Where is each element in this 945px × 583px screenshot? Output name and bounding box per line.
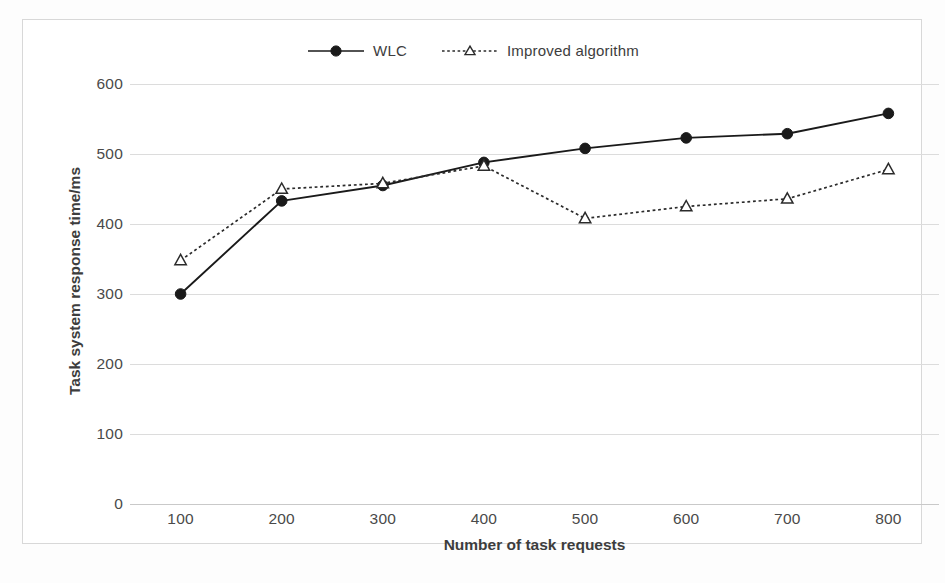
x-tick-label-800: 800: [875, 510, 901, 528]
chart-legend: WLC Improved algorithm: [23, 42, 923, 59]
x-axis-title: Number of task requests: [130, 536, 939, 554]
x-tick-label-600: 600: [673, 510, 699, 528]
data-point-marker-triangle[interactable]: [579, 212, 590, 222]
y-tick-label-0: 0: [31, 495, 123, 513]
plot-area: [130, 84, 939, 504]
chart-screenshot: WLC Improved algorithm 01002003004005006…: [0, 0, 945, 583]
x-tick-label-500: 500: [572, 510, 598, 528]
data-point-marker-triangle[interactable]: [681, 201, 692, 211]
data-point-marker-circle[interactable]: [883, 108, 894, 119]
x-tick-label-400: 400: [471, 510, 497, 528]
x-tick-label-200: 200: [268, 510, 294, 528]
data-point-marker-circle[interactable]: [580, 143, 591, 154]
series-layer: [130, 84, 939, 504]
x-tick-label-700: 700: [774, 510, 800, 528]
legend-solid-line-filled-circle-icon: [307, 44, 365, 58]
data-point-marker-triangle[interactable]: [175, 254, 186, 264]
legend-dotted-line-open-triangle-icon: [441, 44, 499, 58]
data-point-marker-triangle[interactable]: [782, 193, 793, 203]
data-point-marker-triangle[interactable]: [883, 163, 894, 173]
data-point-marker-circle[interactable]: [681, 133, 692, 144]
x-axis-tick-labels: 100200300400500600700800: [130, 510, 939, 536]
x-tick-label-100: 100: [167, 510, 193, 528]
data-point-marker-circle[interactable]: [782, 128, 793, 139]
legend-item-improved-algorithm[interactable]: Improved algorithm: [441, 42, 639, 59]
legend-label-improved-algorithm: Improved algorithm: [507, 42, 639, 59]
data-point-marker-circle[interactable]: [276, 196, 287, 207]
legend-label-wlc: WLC: [373, 42, 407, 59]
series-improved-algorithm: [175, 160, 894, 265]
y-axis-title: Task system response time/ms: [66, 71, 84, 491]
data-point-marker-triangle[interactable]: [276, 183, 287, 193]
data-point-marker-circle[interactable]: [175, 289, 186, 300]
gridline-0: [130, 504, 939, 505]
legend-item-wlc[interactable]: WLC: [307, 42, 407, 59]
series-line: [181, 166, 889, 261]
x-tick-label-300: 300: [370, 510, 396, 528]
chart-frame: WLC Improved algorithm 01002003004005006…: [22, 19, 922, 544]
